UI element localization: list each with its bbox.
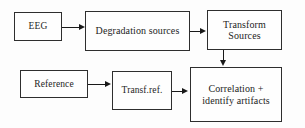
node-transform-sources-label: Transform Sources [221,19,268,41]
node-transform-sources[interactable]: Transform Sources [207,10,282,50]
arrowhead-right-icon [79,24,85,30]
node-eeg[interactable]: EEG [14,12,62,41]
node-degradation-sources-label: Degradation sources [94,25,182,36]
node-reference-label: Reference [32,79,75,90]
node-eeg-label: EEG [27,21,50,32]
arrowhead-right-icon [105,81,111,87]
edge-line [88,84,106,85]
arrowhead-right-icon [200,28,206,34]
node-transf-ref-label: Transf.ref. [120,85,165,96]
node-transf-ref[interactable]: Transf.ref. [112,71,172,110]
node-reference[interactable]: Reference [20,70,88,98]
arrowhead-down-icon [220,60,226,66]
arrowhead-right-icon [182,88,188,94]
node-correlation-identify-artifacts[interactable]: Correlation + identify artifacts [190,67,282,122]
node-degradation-sources[interactable]: Degradation sources [85,11,190,51]
node-correlation-identify-artifacts-label: Correlation + identify artifacts [200,83,272,105]
flowchart-canvas: EEG Degradation sources Transform Source… [0,0,305,128]
